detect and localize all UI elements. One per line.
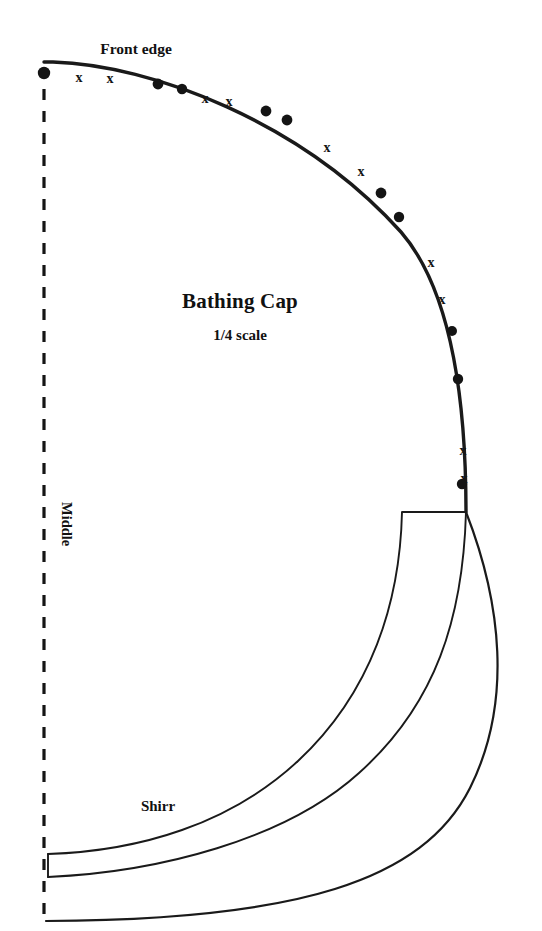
pattern-drawing: x x x x x x x x x x Front edge Bathing C… xyxy=(0,0,542,931)
dot-mark xyxy=(394,212,404,222)
x-mark: x xyxy=(439,292,446,307)
dot-mark xyxy=(261,106,272,117)
x-mark: x xyxy=(324,140,331,155)
x-mark: x xyxy=(107,71,114,86)
front-edge-label: Front edge xyxy=(100,40,172,57)
dot-mark xyxy=(282,115,293,126)
sheet-background xyxy=(0,0,542,931)
scale-subtitle: 1/4 scale xyxy=(213,327,267,343)
x-mark: x xyxy=(202,91,209,106)
dot-mark xyxy=(447,326,457,336)
page-title: Bathing Cap xyxy=(182,289,298,313)
x-mark: x xyxy=(428,255,435,270)
dot-mark xyxy=(153,79,164,90)
dot-mark xyxy=(38,67,50,79)
x-mark: x xyxy=(226,94,233,109)
dot-mark xyxy=(376,188,387,199)
x-mark: x xyxy=(358,164,365,179)
x-mark: x xyxy=(76,70,83,85)
dot-mark xyxy=(453,374,463,384)
x-mark: x xyxy=(461,471,468,486)
pattern-sheet: x x x x x x x x x x Front edge Bathing C… xyxy=(0,0,542,931)
shirr-label: Shirr xyxy=(141,798,176,814)
middle-fold-label: Middle xyxy=(59,502,75,547)
x-mark: x xyxy=(460,443,467,458)
dot-mark xyxy=(177,84,187,94)
